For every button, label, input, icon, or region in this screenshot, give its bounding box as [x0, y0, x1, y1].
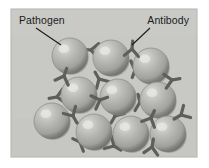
pathogen-1	[52, 38, 89, 75]
sphere-edge-shade	[52, 38, 88, 74]
sphere-highlight	[106, 85, 117, 94]
sphere-edge-shade	[34, 103, 70, 139]
sphere-highlight	[58, 44, 69, 53]
pathogen-2	[93, 40, 130, 77]
pathogen-8	[76, 114, 113, 151]
agglutination-diagram: PathogenAntibody	[0, 0, 209, 168]
pathogen-7	[34, 103, 71, 140]
sphere-highlight	[40, 109, 51, 118]
sphere-highlight	[156, 122, 167, 131]
sphere-edge-shade	[150, 116, 186, 152]
figure-root: PathogenAntibody	[0, 0, 209, 168]
sphere-highlight	[82, 120, 93, 129]
pathogen-10	[150, 116, 187, 153]
sphere-edge-shade	[140, 82, 176, 118]
sphere-highlight	[119, 122, 130, 131]
pathogen-6	[140, 82, 177, 119]
sphere-highlight	[99, 46, 110, 55]
sphere-edge-shade	[76, 114, 112, 150]
antibody-label: Antibody	[147, 14, 189, 26]
sphere-highlight	[139, 54, 150, 63]
sphere-edge-shade	[133, 48, 169, 84]
sphere-edge-shade	[93, 40, 129, 76]
pathogen-label: Pathogen	[19, 14, 65, 26]
sphere-highlight	[146, 88, 157, 97]
pathogen-3	[133, 48, 170, 85]
